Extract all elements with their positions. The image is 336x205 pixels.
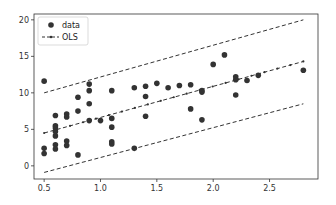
data-point (53, 146, 59, 152)
y-tick-label: 0 (24, 162, 29, 171)
data-point (301, 67, 307, 73)
data-point (53, 113, 59, 119)
ols-marker (121, 110, 123, 112)
y-axis: 05101520 (19, 16, 34, 171)
data-point (188, 82, 194, 88)
y-tick-label: 5 (24, 125, 29, 134)
x-tick-label: 2.5 (263, 184, 276, 193)
ols-marker (95, 118, 97, 120)
ols-marker (147, 103, 149, 105)
data-point (53, 133, 59, 139)
legend-label-ols: OLS (62, 33, 78, 42)
ols-marker (289, 64, 291, 66)
data-point (165, 85, 171, 91)
data-point (109, 116, 115, 122)
data-point (41, 78, 47, 84)
data-point (255, 73, 261, 79)
data-point (75, 152, 81, 158)
data-point (143, 94, 149, 100)
data-point (154, 81, 160, 87)
x-tick-label: 2.0 (207, 184, 220, 193)
data-point (75, 108, 81, 114)
data-point (75, 94, 81, 100)
legend: data OLS (38, 17, 88, 45)
ols-marker (43, 132, 45, 134)
legend-label-data: data (62, 21, 80, 30)
x-axis: 0.51.01.52.02.5 (38, 179, 276, 193)
data-point (233, 77, 239, 83)
data-point (109, 124, 115, 130)
data-point (64, 114, 70, 120)
data-point (143, 113, 149, 119)
data-point (86, 88, 92, 94)
y-tick-label: 20 (19, 16, 29, 25)
data-point (199, 117, 205, 123)
data-point (41, 151, 47, 157)
ols-marker (212, 85, 214, 87)
ols-marker (69, 125, 71, 127)
data-point (86, 118, 92, 124)
ols-marker (173, 96, 175, 98)
data-point (132, 146, 138, 152)
ols-marker (224, 82, 226, 84)
scatter-chart: 0.51.01.52.02.5 05101520 data OLS (0, 0, 336, 205)
ols-marker (302, 60, 304, 62)
ols-marker (108, 114, 110, 116)
data-point (86, 101, 92, 107)
data-point (177, 83, 183, 89)
ols-marker (276, 68, 278, 70)
x-tick-label: 1.0 (94, 184, 107, 193)
data-point (199, 89, 205, 95)
data-point (244, 78, 250, 84)
y-tick-label: 10 (19, 89, 29, 98)
data-point (233, 92, 239, 98)
data-point (64, 143, 70, 149)
x-tick-label: 0.5 (38, 184, 51, 193)
data-point (98, 118, 104, 124)
legend-ols-marker-icon (50, 36, 53, 39)
ols-marker (82, 121, 84, 123)
ols-marker (263, 71, 265, 73)
data-point (86, 81, 92, 87)
data-point (143, 83, 149, 89)
ols-marker (250, 75, 252, 77)
data-point (210, 62, 216, 68)
y-tick-label: 15 (19, 52, 29, 61)
ols-marker (160, 100, 162, 102)
data-point (41, 146, 47, 152)
data-point (132, 85, 138, 91)
ols-marker (134, 107, 136, 109)
data-point (109, 141, 115, 147)
data-point (222, 52, 228, 58)
legend-data-marker-icon (48, 22, 54, 28)
data-point (109, 88, 115, 94)
data-point (188, 106, 194, 112)
x-tick-label: 1.5 (150, 184, 163, 193)
ols-marker (186, 93, 188, 95)
